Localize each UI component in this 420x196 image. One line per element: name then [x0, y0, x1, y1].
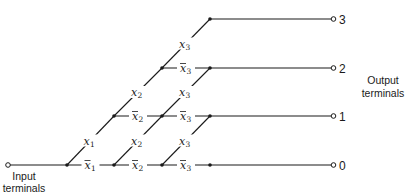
junction-node [208, 66, 212, 70]
output-label-1: 1 [339, 110, 346, 124]
junction-node [208, 163, 212, 167]
edge-label-x3: x3 [177, 38, 195, 52]
edges-layer [8, 19, 331, 165]
edge-label-not-x1: x1 [82, 159, 100, 173]
junction-node [208, 114, 212, 118]
input-terminal [6, 163, 11, 168]
junction-node [112, 114, 116, 118]
svg-text:3: 3 [187, 67, 192, 76]
svg-text:3: 3 [186, 91, 191, 100]
edge-label-not-x3: x3 [177, 62, 195, 76]
svg-text:2: 2 [138, 91, 143, 100]
svg-text:3: 3 [187, 115, 192, 124]
junction-node [112, 163, 116, 167]
junction-node [160, 163, 164, 167]
input-caption-line1: Input [12, 170, 35, 182]
output-label-0: 0 [339, 159, 346, 173]
svg-text:3: 3 [186, 43, 191, 52]
input-caption-line2: terminals [3, 182, 46, 194]
edge-label-x1: x1 [82, 135, 100, 149]
edge-label-x3: x3 [177, 135, 195, 149]
edge-label-not-x3: x3 [177, 159, 195, 173]
output-caption-line1: Output [367, 74, 399, 86]
svg-text:2: 2 [139, 164, 144, 173]
svg-text:3: 3 [186, 140, 191, 149]
svg-text:2: 2 [139, 115, 144, 124]
edge-label-not-x2: x2 [129, 110, 147, 124]
svg-text:3: 3 [187, 164, 192, 173]
output-terminal-3 [331, 17, 336, 22]
output-terminal-2 [331, 66, 336, 71]
edge-label-not-x3: x3 [177, 110, 195, 124]
edge-label-x2: x2 [129, 135, 147, 149]
output-terminal-0 [331, 163, 336, 168]
svg-text:1: 1 [91, 164, 96, 173]
junction-node [160, 66, 164, 70]
junction-node [65, 163, 69, 167]
edge-label-x3: x3 [177, 86, 195, 100]
output-label-3: 3 [339, 13, 346, 27]
edge-label-x2: x2 [129, 86, 147, 100]
svg-text:1: 1 [90, 140, 95, 149]
terminals-layer: 3210 [6, 13, 346, 173]
relay-tree-diagram: x1x1x2x2x2x2x3x3x3x3x3x3 3210 Input term… [0, 0, 420, 196]
edge-label-not-x2: x2 [129, 159, 147, 173]
output-caption-line2: terminals [362, 87, 405, 99]
output-label-2: 2 [339, 62, 346, 76]
junction-node [160, 114, 164, 118]
output-terminal-1 [331, 114, 336, 119]
svg-text:2: 2 [138, 140, 143, 149]
labels-layer: x1x1x2x2x2x2x3x3x3x3x3x3 [82, 38, 196, 174]
junction-node [208, 17, 212, 21]
